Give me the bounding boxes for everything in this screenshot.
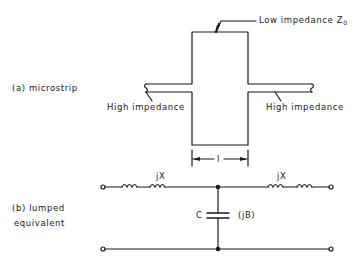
length-arrowheads — [193, 22, 247, 161]
inductor-right-2 — [297, 185, 312, 188]
low-impedance-label: Low impedance Z0 — [259, 16, 347, 26]
length-dimension-ticks — [192, 150, 248, 166]
diagram-canvas: Low impedance Z0 (a) microstrip High imp… — [0, 0, 362, 264]
microstrip-outline — [146, 32, 312, 145]
terminal-top-left — [101, 185, 105, 189]
susceptance-label: (jB) — [238, 211, 255, 220]
low-impedance-text: Low impedance Z — [259, 15, 343, 25]
caption-b-line1: (b) lumped — [12, 204, 65, 213]
caption-a: (a) microstrip — [12, 84, 78, 93]
junction-dot-top — [216, 185, 221, 190]
capacitor-label: C — [196, 211, 203, 220]
high-impedance-right-leader — [275, 92, 281, 101]
inductor-left-2 — [150, 185, 165, 188]
high-impedance-left-label: High impedance — [107, 103, 185, 112]
inductor-left-1 — [122, 185, 137, 188]
high-impedance-left-leader — [146, 92, 152, 101]
caption-b-line2: equivalent — [14, 219, 65, 228]
inductor-right-1 — [268, 185, 283, 188]
junction-dot-bottom — [216, 247, 221, 252]
terminal-bottom-left — [101, 247, 105, 251]
low-impedance-leader — [216, 21, 256, 32]
right-break-mark — [311, 84, 314, 92]
left-reactance-label: jX — [156, 172, 165, 181]
z0-subscript: 0 — [343, 19, 347, 26]
left-break-mark — [145, 84, 148, 92]
right-reactance-label: jX — [277, 172, 286, 181]
high-impedance-right-label: High impedance — [266, 103, 344, 112]
length-label: l — [217, 155, 220, 164]
